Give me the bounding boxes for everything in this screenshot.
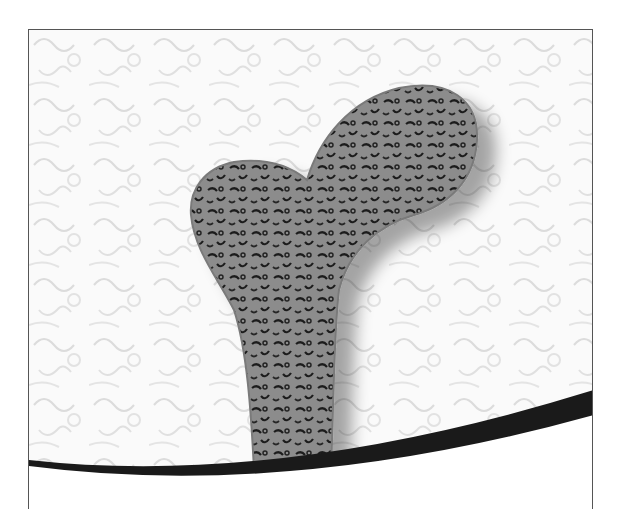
image-frame bbox=[28, 29, 593, 509]
femur-illustration bbox=[29, 30, 593, 509]
